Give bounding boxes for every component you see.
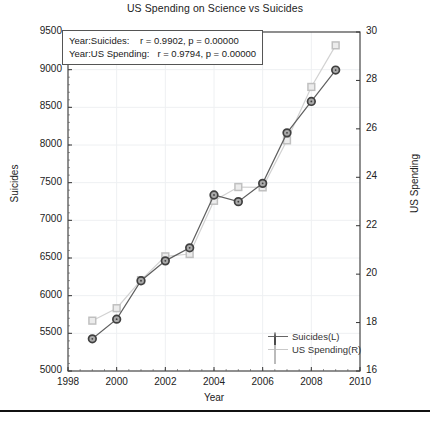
- annotation-line-suicides: Year:Suicides: r = 0.9902, p = 0.00000: [69, 34, 256, 47]
- chart-legend: Suicides(L) US Spending(R): [268, 330, 361, 356]
- annotation-line-spending: Year:US Spending: r = 0.9794, p = 0.0000…: [69, 47, 256, 60]
- y-tick-label-right: 26: [366, 122, 404, 133]
- y-tick-label-left: 7500: [24, 176, 62, 187]
- x-axis-ticks: 1998200020022004200620082010: [0, 374, 430, 392]
- x-tick-label: 1998: [46, 376, 90, 387]
- y-axis-ticks-left: 5000550060006500700075008000850090009500: [22, 0, 62, 421]
- y-tick-label-left: 7000: [24, 213, 62, 224]
- legend-line-icon: [268, 336, 288, 337]
- legend-item-spending: US Spending(R): [268, 343, 361, 356]
- legend-label-spending: US Spending(R): [292, 344, 361, 355]
- chart-figure: US Spending on Science vs Suicides Suici…: [0, 0, 430, 421]
- x-tick-label: 2008: [289, 376, 333, 387]
- legend-label-suicides: Suicides(L): [292, 331, 340, 342]
- y-tick-label-right: 30: [366, 25, 404, 36]
- page-divider: [0, 410, 430, 412]
- y-tick-label-right: 18: [366, 316, 404, 327]
- square-marker-icon: [274, 346, 276, 364]
- x-tick-label: 2006: [241, 376, 285, 387]
- x-tick-label: 2000: [95, 376, 139, 387]
- y-tick-label-left: 6500: [24, 251, 62, 262]
- y-tick-label-left: 5500: [24, 326, 62, 337]
- y-tick-label-left: 9500: [24, 25, 62, 36]
- x-tick-label: 2004: [192, 376, 236, 387]
- y-tick-label-left: 6000: [24, 289, 62, 300]
- y-axis-ticks-right: 1618202224262830: [366, 0, 406, 421]
- x-axis-label: Year: [68, 392, 360, 403]
- y-tick-label-right: 28: [366, 73, 404, 84]
- y-tick-label-right: 20: [366, 267, 404, 278]
- y-tick-label-left: 8000: [24, 138, 62, 149]
- y-tick-label-right: 24: [366, 170, 404, 181]
- x-tick-label: 2010: [338, 376, 382, 387]
- y-tick-label-left: 8500: [24, 100, 62, 111]
- y-axis-label-right: US Spending: [409, 144, 420, 224]
- correlation-annotation-box: Year:Suicides: r = 0.9902, p = 0.00000 Y…: [62, 30, 263, 65]
- x-tick-label: 2002: [143, 376, 187, 387]
- legend-item-suicides: Suicides(L): [268, 330, 361, 343]
- legend-key-suicides: [268, 331, 288, 343]
- legend-key-spending: [268, 344, 288, 356]
- y-tick-label-right: 22: [366, 219, 404, 230]
- y-axis-label-left: Suicides: [9, 144, 20, 224]
- y-tick-label-left: 9000: [24, 63, 62, 74]
- legend-line-icon: [268, 349, 288, 350]
